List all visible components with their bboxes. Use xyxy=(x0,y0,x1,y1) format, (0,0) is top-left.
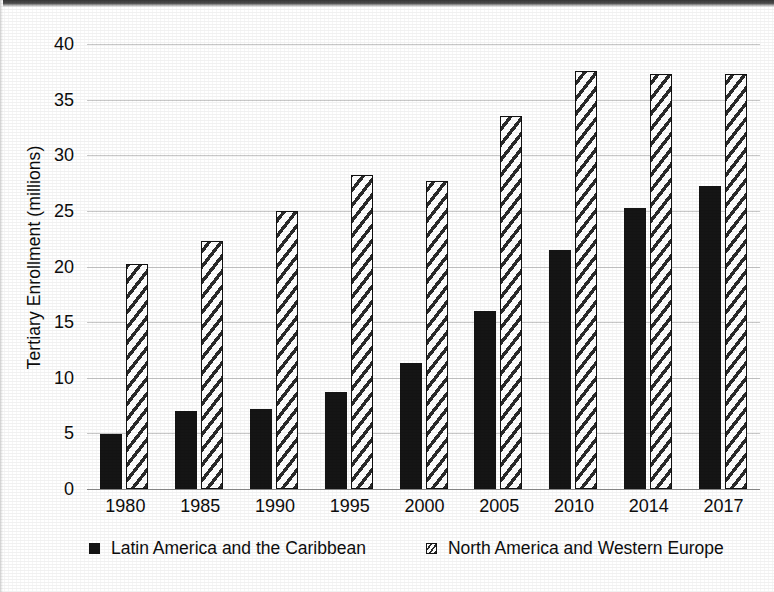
bar xyxy=(175,411,197,489)
legend-swatch-solid-icon xyxy=(89,543,100,554)
legend-label: North America and Western Europe xyxy=(448,538,724,559)
x-axis-tick-labels: 198019851990199520002005201020142017 xyxy=(87,496,760,526)
bar xyxy=(699,186,721,489)
legend-label: Latin America and the Caribbean xyxy=(111,538,366,559)
scan-left-edge xyxy=(0,0,3,592)
x-axis-tick-label: 2014 xyxy=(629,496,669,517)
bar-group xyxy=(325,44,373,489)
bars-layer xyxy=(87,44,760,489)
bar-group xyxy=(400,44,448,489)
x-axis-tick-label: 1990 xyxy=(255,496,295,517)
y-axis-tick-label: 25 xyxy=(54,200,74,221)
bar-group xyxy=(175,44,223,489)
bar-group xyxy=(624,44,672,489)
bar xyxy=(400,363,422,489)
legend-entry: North America and Western Europe xyxy=(426,538,724,559)
x-axis-tick-label: 2010 xyxy=(554,496,594,517)
gridline xyxy=(87,489,760,490)
bar-chart-figure: Tertiary Enrollment (millions) 051015202… xyxy=(0,0,774,592)
bar xyxy=(474,311,496,489)
bar xyxy=(100,434,122,489)
scan-top-band xyxy=(0,0,774,7)
y-axis-tick-label: 10 xyxy=(54,367,74,388)
bar-group xyxy=(100,44,148,489)
y-axis-title: Tertiary Enrollment (millions) xyxy=(24,38,45,478)
bar xyxy=(351,175,373,489)
bar xyxy=(426,181,448,489)
bar xyxy=(650,74,672,489)
bar xyxy=(575,71,597,489)
y-axis-tick-label: 35 xyxy=(54,89,74,110)
y-axis-tick-label: 0 xyxy=(64,479,74,500)
x-axis-tick-label: 2000 xyxy=(404,496,444,517)
x-axis-tick-label: 1985 xyxy=(180,496,220,517)
bar xyxy=(725,74,747,489)
bar xyxy=(549,250,571,489)
y-axis-tick-label: 20 xyxy=(54,256,74,277)
bar xyxy=(126,264,148,489)
y-axis-tick-label: 30 xyxy=(54,145,74,166)
bar-group xyxy=(474,44,522,489)
chart-legend: Latin America and the CaribbeanNorth Ame… xyxy=(87,534,762,562)
bar xyxy=(201,241,223,489)
bar-group xyxy=(549,44,597,489)
bar xyxy=(276,211,298,489)
x-axis-tick-label: 2005 xyxy=(479,496,519,517)
y-axis-tick-label: 40 xyxy=(54,34,74,55)
bar xyxy=(325,392,347,489)
x-axis-tick-label: 1995 xyxy=(330,496,370,517)
x-axis-tick-label: 2017 xyxy=(704,496,744,517)
plot-area: 0510152025303540 xyxy=(87,44,760,489)
legend-swatch-hatched-icon xyxy=(426,543,437,554)
bar xyxy=(500,116,522,489)
y-axis-tick-label: 15 xyxy=(54,312,74,333)
legend-entry: Latin America and the Caribbean xyxy=(89,538,366,559)
bar xyxy=(624,208,646,489)
x-axis-tick-label: 1980 xyxy=(105,496,145,517)
bar-group xyxy=(699,44,747,489)
bar xyxy=(250,409,272,489)
bar-group xyxy=(250,44,298,489)
y-axis-tick-label: 5 xyxy=(64,423,74,444)
